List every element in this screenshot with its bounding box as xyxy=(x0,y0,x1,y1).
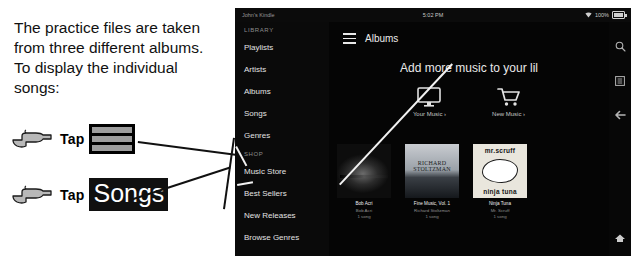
album-cover-text: RICHARD STOLTZMAN xyxy=(405,160,459,173)
leader-line-join xyxy=(223,138,235,210)
sidebar-item-new-releases[interactable]: New Releases xyxy=(235,204,329,226)
instruction-line: To display the individual xyxy=(14,58,229,78)
songs-label[interactable]: Songs xyxy=(89,178,168,211)
hamburger-menu-icon[interactable] xyxy=(343,33,356,44)
status-bar: John's Kindle 5:02 PM 100% xyxy=(235,8,631,22)
sidebar-item-browse-genres[interactable]: Browse Genres xyxy=(235,226,329,248)
search-icon[interactable] xyxy=(615,38,626,56)
breadcrumb-label: Albums xyxy=(365,33,398,44)
sidebar-item-artists[interactable]: Artists xyxy=(235,58,329,80)
sidebar-item-playlists[interactable]: Playlists xyxy=(235,36,329,58)
shopping-cart-icon xyxy=(497,85,521,107)
sidebar-item-best-sellers[interactable]: Best Sellers xyxy=(235,182,329,204)
promo-your-music-label: Your Music › xyxy=(413,111,446,117)
album-card[interactable]: mr.scruff ninja tuna Ninja Tuna Mr. Scru… xyxy=(473,144,527,219)
sidebar-section-shop-header: SHOP xyxy=(235,146,329,160)
sidebar-item-music-store[interactable]: Music Store xyxy=(235,160,329,182)
right-toolbar xyxy=(609,22,631,256)
step-verb: Tap xyxy=(60,187,84,203)
album-cover: RICHARD STOLTZMAN xyxy=(405,144,459,198)
sidebar-item-songs[interactable]: Songs xyxy=(235,102,329,124)
step-verb: Tap xyxy=(60,131,84,147)
album-meta: Fine Music, Vol. 1 Richard Stoltzman 1 s… xyxy=(405,201,459,219)
promo-new-music-label: New Music › xyxy=(492,111,525,117)
album-song-count: 1 song xyxy=(337,214,391,219)
library-sidebar: LIBRARY Playlists Artists Albums Songs G… xyxy=(235,22,329,256)
back-arrow-icon[interactable] xyxy=(614,106,626,124)
album-cover-text-top: mr.scruff xyxy=(473,147,527,154)
album-artist: Richard Stoltzman xyxy=(405,208,459,213)
instruction-line: from three different albums. xyxy=(14,38,229,58)
album-cover xyxy=(337,144,391,198)
sidebar-section-library-header: LIBRARY xyxy=(235,22,329,36)
breadcrumb: Albums xyxy=(329,22,631,44)
album-meta: Ninja Tuna Mr. Scruff 1 song xyxy=(473,201,527,219)
album-title: Ninja Tuna xyxy=(473,201,527,206)
album-artist: Bob Acri xyxy=(337,208,391,213)
album-title: Fine Music, Vol. 1 xyxy=(405,201,459,206)
status-time: 5:02 PM xyxy=(235,12,631,18)
album-grid: Bob Acri Bob Acri 1 song RICHARD STOLTZM… xyxy=(337,144,603,219)
battery-percent: 100% xyxy=(595,12,609,18)
tutorial-figure: The practice files are taken from three … xyxy=(0,0,635,268)
instruction-line: The practice files are taken xyxy=(14,18,229,38)
album-song-count: 1 song xyxy=(405,214,459,219)
album-card[interactable]: RICHARD STOLTZMAN Fine Music, Vol. 1 Ric… xyxy=(405,144,459,219)
album-cover: mr.scruff ninja tuna xyxy=(473,144,527,198)
album-song-count: 1 song xyxy=(473,214,527,219)
battery-icon xyxy=(612,11,625,19)
pointing-hand-icon xyxy=(10,183,54,207)
sidebar-item-genres[interactable]: Genres xyxy=(235,124,329,146)
content-pane: Albums Add more music to your lil Your M… xyxy=(329,22,631,256)
album-meta: Bob Acri Bob Acri 1 song xyxy=(337,201,391,219)
list-view-icon[interactable] xyxy=(615,72,625,90)
sidebar-item-albums[interactable]: Albums xyxy=(235,80,329,102)
album-cover-artwork xyxy=(482,159,518,183)
promo-new-music[interactable]: New Music › xyxy=(492,85,525,117)
home-icon[interactable] xyxy=(614,229,626,247)
tablet-screenshot: John's Kindle 5:02 PM 100% LIBRARY Playl… xyxy=(235,8,631,256)
album-title: Bob Acri xyxy=(337,201,391,206)
step-tap-menu: Tap xyxy=(10,124,135,154)
album-cover-text-bottom: ninja tuna xyxy=(473,188,527,195)
status-indicators: 100% xyxy=(585,11,625,19)
promo-actions: Your Music › New Music › xyxy=(329,85,631,117)
hamburger-menu-icon[interactable] xyxy=(89,124,135,154)
wifi-icon xyxy=(585,12,592,18)
promo-title: Add more music to your lil xyxy=(329,61,631,75)
instruction-line: songs: xyxy=(14,78,229,98)
pointing-hand-icon xyxy=(10,127,54,151)
instruction-paragraph: The practice files are taken from three … xyxy=(14,18,229,99)
album-artist: Mr. Scruff xyxy=(473,208,527,213)
